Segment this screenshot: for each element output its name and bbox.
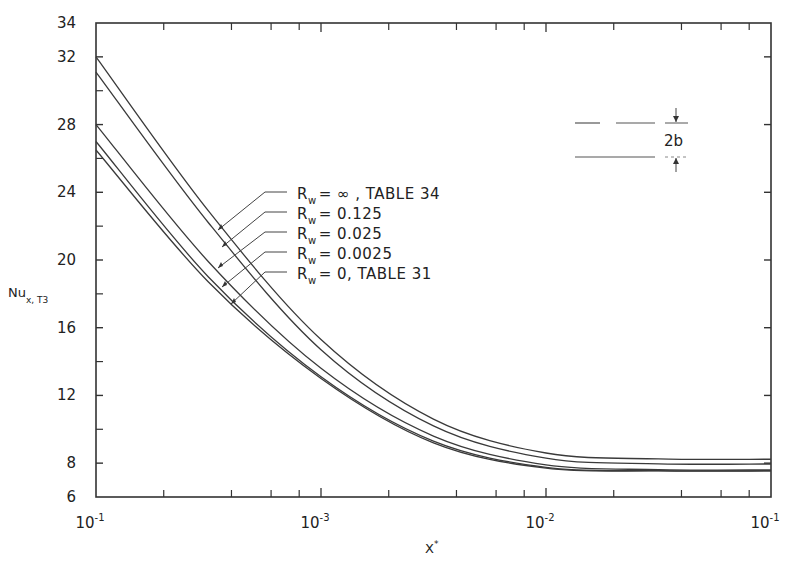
x-tick-label: 10-3	[300, 512, 329, 532]
legend-leader-line	[231, 272, 265, 304]
y-axis-title: Nux, T3	[8, 285, 48, 305]
y-tick-label: 28	[57, 116, 76, 134]
x-tick-label: 10-1	[75, 512, 104, 532]
x-tick-label: 10-1	[750, 512, 779, 532]
legend-arrow-icon	[218, 262, 223, 268]
legend-item-label: Rw= ∞ , TABLE 34	[297, 185, 440, 206]
y-tick-label: 34	[57, 14, 76, 32]
y-tick-label: 20	[57, 251, 76, 269]
legend-arrow-icon	[222, 281, 227, 287]
chart: 6812162024283234 10-110-310-210-1 Rw= ∞ …	[0, 0, 792, 568]
inset-dimension-label: 2b	[664, 132, 683, 150]
legend-leader-line	[222, 252, 265, 287]
arrow-down-icon	[673, 116, 679, 122]
legend-item-label: Rw= 0.125	[297, 205, 382, 226]
legend-item-label: Rw= 0.025	[297, 225, 382, 246]
series-line-1	[96, 72, 771, 464]
legend-item-label: Rw= 0.0025	[297, 245, 392, 266]
y-tick-label: 32	[57, 48, 76, 66]
legend-item-label: Rw= 0, TABLE 31	[297, 265, 432, 286]
series-line-2	[96, 125, 771, 470]
legend-leader-line	[218, 192, 265, 230]
y-tick-label: 6	[66, 488, 76, 506]
series-line-0	[96, 57, 771, 460]
plate-inset-diagram: 2b	[575, 108, 688, 172]
y-tick-label: 16	[57, 319, 76, 337]
y-tick-label: 12	[57, 386, 76, 404]
y-tick-label: 8	[66, 454, 76, 472]
legend: Rw= ∞ , TABLE 34Rw= 0.125Rw= 0.025Rw= 0.…	[218, 185, 440, 304]
series-lines	[96, 57, 771, 471]
legend-leader-line	[222, 212, 265, 247]
x-axis-title: X*	[425, 539, 439, 556]
x-tick-label: 10-2	[525, 512, 554, 532]
y-tick-label: 24	[57, 183, 76, 201]
arrow-up-icon	[673, 158, 679, 164]
